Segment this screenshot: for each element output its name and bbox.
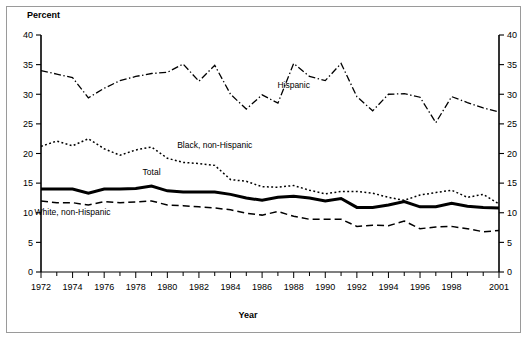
x-tick-label: 1986 <box>252 282 272 292</box>
x-tick-label: 1996 <box>410 282 430 292</box>
y-tick-label-right: 10 <box>507 208 517 218</box>
y-tick-label-right: 30 <box>507 90 517 100</box>
x-tick-label: 1992 <box>347 282 367 292</box>
y-tick-label-right: 35 <box>507 60 517 70</box>
series-line-black-non-hispanic <box>41 139 499 204</box>
x-tick-label: 1990 <box>315 282 335 292</box>
series-annotation-total: Total <box>143 167 161 177</box>
y-tick-label-left: 15 <box>23 178 33 188</box>
y-tick-label-left: 5 <box>28 238 33 248</box>
x-tick-label: 1978 <box>126 282 146 292</box>
y-tick-label-right: 0 <box>507 267 512 277</box>
y-tick-label-left: 0 <box>28 267 33 277</box>
y-tick-label-left: 35 <box>23 60 33 70</box>
y-tick-label-right: 40 <box>507 30 517 40</box>
x-tick-label: 1982 <box>189 282 209 292</box>
x-tick-label: 1994 <box>378 282 398 292</box>
y-tick-label-right: 20 <box>507 149 517 159</box>
line-chart-canvas: 0055101015152020252530303535404019721974… <box>0 0 528 340</box>
series-annotation-hispanic: Hispanic <box>277 80 310 90</box>
y-tick-label-left: 25 <box>23 119 33 129</box>
y-tick-label-left: 20 <box>23 149 33 159</box>
x-tick-label: 1974 <box>63 282 83 292</box>
chart-figure: 0055101015152020252530303535404019721974… <box>0 0 528 340</box>
y-tick-label-right: 15 <box>507 178 517 188</box>
series-annotation-black-non-hispanic: Black, non-Hispanic <box>177 140 253 150</box>
y-tick-label-right: 25 <box>507 119 517 129</box>
y-tick-label-right: 5 <box>507 238 512 248</box>
x-tick-label: 1976 <box>94 282 114 292</box>
x-tick-label: 1984 <box>221 282 241 292</box>
y-tick-label-left: 40 <box>23 30 33 40</box>
series-line-total <box>41 186 499 208</box>
series-annotation-white-non-hispanic: White, non-Hispanic <box>35 207 112 217</box>
x-tick-label: 1972 <box>31 282 51 292</box>
y-tick-label-left: 10 <box>23 208 33 218</box>
x-tick-label: 1980 <box>157 282 177 292</box>
x-tick-label: 1998 <box>442 282 462 292</box>
x-tick-label: 1988 <box>284 282 304 292</box>
y-tick-label-left: 30 <box>23 90 33 100</box>
x-tick-label: 2001 <box>489 282 509 292</box>
series-line-hispanic <box>41 63 499 122</box>
